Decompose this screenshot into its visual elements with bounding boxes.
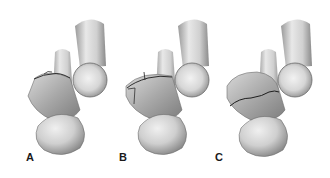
panel-label: C [215, 151, 223, 163]
bone-illustration-a [0, 0, 110, 178]
panel-label: A [26, 151, 34, 163]
panel-a: A [0, 0, 110, 178]
fracture-illustration: A B C [0, 0, 330, 178]
panel-label: B [119, 151, 127, 163]
panel-c: C [205, 0, 315, 178]
bone-illustration-b [100, 0, 210, 178]
bone-illustration-c [205, 0, 330, 178]
panel-b: B [100, 0, 210, 178]
